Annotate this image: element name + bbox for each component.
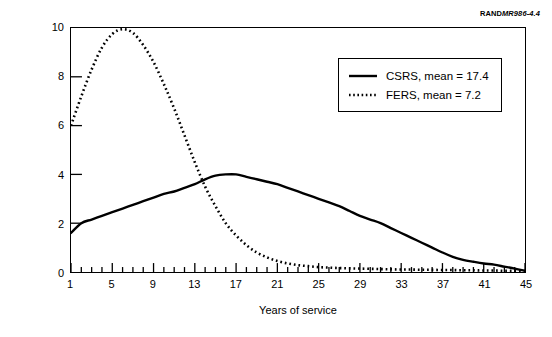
legend-key-solid-line-icon [348,70,378,82]
legend-label-csrs: CSRS, mean = 17.4 [386,70,489,82]
x-tick-label: 45 [520,278,532,290]
y-tick-label: 2 [34,218,64,230]
x-tick-label: 9 [150,278,156,290]
legend-item-fers: FERS, mean = 7.2 [348,85,489,104]
legend-item-csrs: CSRS, mean = 17.4 [348,66,489,85]
x-tick-label: 33 [396,278,408,290]
y-tick-label: 0 [34,267,64,279]
source-tag-reference: MR986-4.4 [502,9,540,18]
x-tick-label: 21 [271,278,283,290]
y-tick-label: 10 [34,21,64,33]
legend: CSRS, mean = 17.4 FERS, mean = 7.2 [338,58,502,112]
y-tick-label: 8 [34,70,64,82]
x-tick-label: 25 [313,278,325,290]
figure-container: RANDMR986-4.4 0246810 Fraction 159131721… [0,0,552,337]
source-tag: RANDMR986-4.4 [480,9,540,18]
x-axis-title: Years of service [70,304,526,316]
x-tick-label: 29 [354,278,366,290]
x-tick-label: 13 [188,278,200,290]
legend-label-fers: FERS, mean = 7.2 [386,89,481,101]
series-line-csrs [71,174,525,271]
y-axis-tick-labels: 0246810 [30,27,64,273]
source-tag-prefix: RAND [480,9,502,18]
x-tick-label: 1 [67,278,73,290]
y-tick-label: 6 [34,119,64,131]
x-tick-label: 41 [478,278,490,290]
x-axis-tick-labels: 159131721252933374145 [70,278,526,294]
x-tick-label: 37 [437,278,449,290]
x-tick-label: 17 [230,278,242,290]
legend-key-dotted-line-icon [348,89,378,101]
x-tick-label: 5 [108,278,114,290]
y-tick-label: 4 [34,169,64,181]
